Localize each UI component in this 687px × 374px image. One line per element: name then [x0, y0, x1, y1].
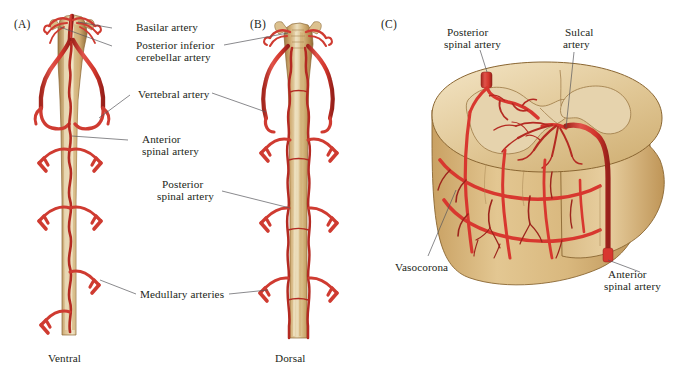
peduncle-left-b: [275, 22, 288, 34]
label-pica-line1: Posterior inferior: [136, 39, 215, 52]
posterior-spinal-artery-c: [481, 72, 492, 88]
leader-pica-a: [60, 27, 112, 46]
label-posterior-spinal-line2: spinal artery: [157, 190, 214, 203]
vertebral-artery-left-a: [41, 40, 70, 108]
label-pica-line2: cerebellar artery: [136, 51, 211, 64]
label-c-sulcal-line2: artery: [563, 38, 590, 51]
sulcal-artery-branches: [494, 122, 582, 168]
label-c-posterior-spinal-line1: Posterior: [447, 26, 488, 39]
label-c-anterior-spinal-line2: spinal artery: [604, 280, 661, 293]
cord-cylinder-front: [432, 110, 650, 285]
label-medullary-arteries: Medullary arteries: [140, 288, 224, 301]
vasocorona-ring-lower: [444, 200, 600, 241]
caption-dorsal: Dorsal: [275, 352, 305, 364]
caption-ventral: Ventral: [48, 352, 81, 364]
brainstem-body-a: [58, 15, 87, 335]
panel-letter-a: (A): [14, 18, 31, 30]
anterior-spinal-artery-a: [69, 42, 72, 332]
panel-a-artwork: [35, 15, 109, 335]
leader-vertebral-a: [99, 95, 130, 118]
vasocorona-ring-upper: [440, 160, 600, 199]
panel-letter-c: (C): [381, 18, 397, 30]
pyramid-right-a: [72, 24, 79, 330]
pyramid-left-a: [64, 22, 70, 330]
figure-spinal-cord-blood-supply: (A) (B) (C) Basilar artery Posterior inf…: [0, 0, 687, 374]
leader-anterior-spinal-a: [72, 136, 128, 140]
leader-pica-b: [224, 33, 288, 45]
leader-medullary-a: [100, 280, 136, 294]
label-posterior-spinal-line1: Posterior: [162, 178, 203, 191]
posterior-spinal-artery-left-b: [287, 48, 292, 338]
peduncle-right-b: [308, 22, 321, 34]
vasocorona-vertical-3: [544, 160, 552, 258]
label-c-vasocorona: Vasocorona: [395, 261, 448, 274]
panel-b-artwork: [260, 22, 337, 338]
leader-posterior-spinal-b: [222, 191, 290, 208]
label-c-sulcal-line1: Sulcal: [565, 26, 594, 39]
leader-basilar: [78, 22, 112, 28]
label-c-anterior-spinal-line1: Anterior: [608, 268, 647, 281]
leader-c-posterior-spinal: [480, 50, 487, 72]
label-anterior-spinal-line1: Anterior: [142, 133, 181, 146]
label-vertebral-artery: Vertebral artery: [138, 88, 209, 101]
gray-matter-left: [466, 87, 570, 154]
anterior-spinal-artery-c: [566, 125, 608, 258]
vasocorona-vertical-1: [465, 112, 472, 252]
posterior-spinal-artery-right-b: [305, 48, 310, 338]
brainstem-body-b: [284, 23, 313, 338]
pica-b: [270, 30, 290, 38]
label-basilar-artery: Basilar artery: [136, 21, 198, 34]
leader-medullary-b: [229, 290, 268, 294]
penetrating-branches-c: [438, 170, 572, 258]
cord-cylinder-back: [560, 120, 664, 258]
basilar-artery-a: [70, 16, 72, 40]
peduncle-right-a: [84, 20, 94, 30]
leader-c-vasocorona: [428, 190, 456, 256]
peduncle-left-a: [50, 20, 60, 30]
illustration-artwork: [0, 0, 687, 374]
label-anterior-spinal-line2: spinal artery: [142, 145, 199, 158]
leader-c-sulcal: [566, 52, 574, 128]
dorsal-branch-c: [487, 88, 538, 118]
vertebral-artery-left-b: [263, 46, 288, 118]
label-c-posterior-spinal-line2: spinal artery: [444, 38, 501, 51]
panel-c-artwork: [432, 62, 664, 285]
vertebral-artery-right-a: [73, 40, 103, 108]
vasocorona-vertical-4: [580, 180, 584, 232]
panel-letter-b: (B): [250, 18, 266, 30]
gray-matter-right: [560, 86, 630, 134]
medullary-arteries-b: [260, 139, 337, 301]
leader-vertebral-b: [212, 93, 266, 112]
sulcal-artery-c: [542, 125, 566, 128]
median-sulcus: [560, 70, 561, 106]
medullary-arteries-a: [39, 149, 101, 333]
cord-cut-face: [432, 62, 662, 172]
vertebral-artery-right-b: [308, 46, 333, 118]
vasocorona-vertical-2: [503, 150, 510, 258]
